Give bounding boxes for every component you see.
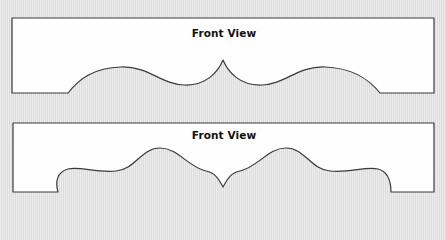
panel-2-title: Front View — [192, 129, 256, 141]
panel-1-title: Front View — [192, 27, 256, 39]
